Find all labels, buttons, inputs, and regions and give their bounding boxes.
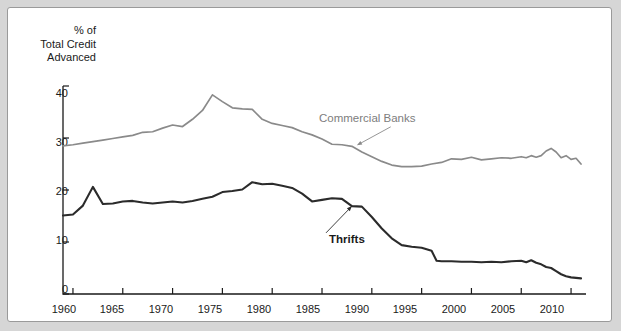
annotation-leader-line bbox=[359, 127, 391, 145]
series-line-thrifts bbox=[63, 182, 581, 278]
annotation-leader-line bbox=[326, 208, 350, 233]
series-line-commercial-banks bbox=[63, 95, 581, 167]
chart-panel: % of Total Credit Advanced 40 30 20 10 0… bbox=[7, 7, 612, 322]
axis-lines bbox=[63, 86, 586, 294]
annotation-arrowhead bbox=[357, 141, 362, 145]
chart-plot-area bbox=[8, 8, 611, 321]
